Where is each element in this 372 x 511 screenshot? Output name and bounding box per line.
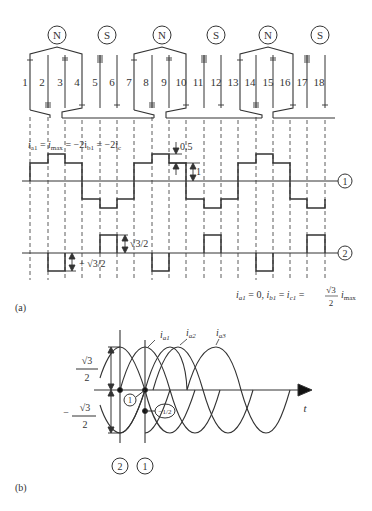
- pole-label-2: S: [104, 29, 110, 41]
- svg-text:14: 14: [245, 76, 257, 88]
- svg-text:3: 3: [57, 76, 63, 88]
- instant-marker-2-label: 2: [118, 461, 123, 472]
- svg-text:7: 7: [126, 76, 132, 88]
- ylabel-bot-den: 2: [83, 419, 88, 430]
- caption-a: (a): [15, 302, 26, 314]
- svg-text:5: 5: [92, 76, 98, 88]
- instant-marker-1-label: 1: [143, 461, 148, 472]
- coil-1-end: [30, 110, 50, 118]
- pole-label-5: N: [264, 29, 272, 41]
- phasor-plot: [72, 330, 312, 474]
- curve-label-ia1: ia1: [160, 329, 170, 342]
- pole-label-1: N: [53, 29, 61, 41]
- pole-label-6: S: [317, 29, 323, 41]
- svg-text:4: 4: [74, 76, 80, 88]
- step-label-bottom: 1: [196, 166, 201, 177]
- ylabel-bot-sign: −: [63, 407, 69, 418]
- condition-fraction-num: √3: [326, 285, 336, 295]
- svg-text:13: 13: [228, 76, 240, 88]
- svg-text:6: 6: [109, 76, 115, 88]
- ylabel-top-num: √3: [82, 355, 93, 366]
- svg-text:18: 18: [314, 76, 326, 88]
- svg-text:8: 8: [143, 76, 149, 88]
- condition-fraction-den: 2: [329, 298, 334, 308]
- svg-text:17: 17: [297, 76, 309, 88]
- svg-text:15: 15: [263, 76, 275, 88]
- waveform-1-annotation: ia1 = imax = −2ib1 = −2ic: [28, 139, 121, 152]
- ylabel-bot-num: √3: [80, 402, 91, 413]
- time-axis-label: t: [303, 402, 307, 414]
- marker-minus-half-label: −1/2: [159, 408, 172, 416]
- curve-label-ia3: ia3: [216, 327, 226, 340]
- time-axis-arrow: [298, 384, 312, 396]
- pole-markers: [48, 26, 329, 44]
- caption-b: (b): [15, 482, 27, 494]
- coil-3-end: [240, 110, 262, 118]
- winding-diagram: N S N S N S 1 2 3 4 5 6 7 8 9 10 11 12 1…: [0, 0, 372, 511]
- svg-text:2: 2: [39, 76, 45, 88]
- waveform-2-label-neg: + √3/2: [79, 258, 105, 269]
- slot-labels: 1 2 3 4 5 6 7 8 9 10 11 12 13 14 15 16 1…: [22, 76, 325, 88]
- pole-label-3: N: [158, 29, 166, 41]
- waveform-2-label-pos: √3/2: [130, 238, 148, 249]
- waveform-2-marker-label: 2: [343, 248, 348, 259]
- condition-imax: imax: [341, 289, 356, 302]
- svg-text:12: 12: [211, 76, 222, 88]
- curve-label-ia2: ia2: [186, 327, 196, 340]
- point-zero: [118, 388, 123, 393]
- step-label-top: 0.5: [180, 141, 193, 152]
- svg-text:10: 10: [176, 76, 188, 88]
- pole-label-4: S: [213, 29, 219, 41]
- waveform-1-marker-label: 1: [343, 176, 348, 187]
- marker-1-label: 1: [128, 396, 132, 405]
- svg-text:1: 1: [22, 76, 28, 88]
- svg-text:11: 11: [193, 76, 204, 88]
- svg-text:9: 9: [161, 76, 167, 88]
- condition-equation: ia1 = 0, ib1 = ic1 =: [236, 289, 305, 302]
- ylabel-top-den: 2: [85, 372, 90, 383]
- svg-text:16: 16: [280, 76, 292, 88]
- coil-2-end: [134, 110, 154, 118]
